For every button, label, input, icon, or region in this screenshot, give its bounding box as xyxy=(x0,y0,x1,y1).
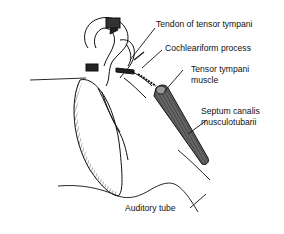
tympanic-membrane xyxy=(74,79,128,196)
tensor-tympani-muscle xyxy=(138,74,209,165)
label-septum-line2: musculotubarii xyxy=(201,117,256,127)
label-tendon-of-tensor-tympani: Tendon of tensor tympani xyxy=(156,19,253,29)
leader-lines xyxy=(130,28,207,208)
label-tensor-tympani-muscle-line1: Tensor tympani xyxy=(191,64,249,74)
label-cochleariform-process: Cochleariform process xyxy=(165,43,251,53)
label-auditory-tube: Auditory tube xyxy=(125,203,176,213)
label-septum-line1: Septum canalis xyxy=(201,106,260,116)
label-tensor-tympani-muscle-line2: muscle xyxy=(191,75,218,85)
anatomy-diagram: Tendon of tensor tympani Cochleariform p… xyxy=(0,0,284,234)
